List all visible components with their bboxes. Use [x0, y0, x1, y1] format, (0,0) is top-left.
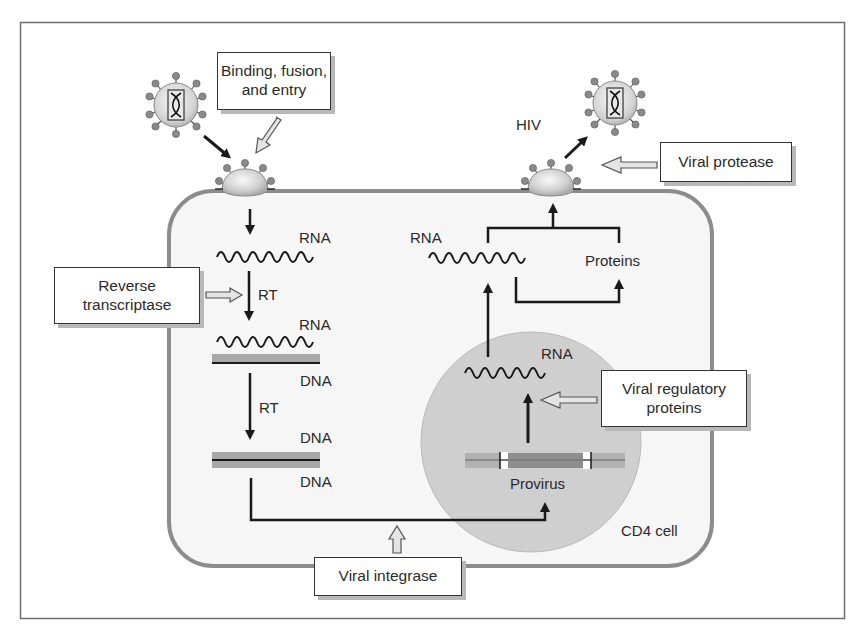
- callout-viral-protease: Viral protease: [660, 142, 792, 182]
- virus-label: HIV: [516, 117, 541, 132]
- label-dna-1: DNA: [300, 373, 332, 388]
- label-rt-1: RT: [258, 287, 278, 302]
- label-rt-2: RT: [259, 400, 279, 415]
- callout-protease-line1: Viral protease: [678, 153, 773, 172]
- callout-reverse-transcriptase: Reverse transcriptase: [54, 267, 200, 324]
- hollow-arrow-protease: [602, 157, 657, 173]
- dna-band-1: [212, 354, 320, 363]
- callout-binding-fusion-entry: Binding, fusion, and entry: [217, 52, 331, 110]
- callout-binding-line1: Binding, fusion,: [221, 62, 327, 81]
- label-cd4-cell: CD4 cell: [621, 523, 678, 538]
- callout-regulatory-line2: proteins: [646, 399, 701, 418]
- callout-regulatory-line1: Viral regulatory: [622, 380, 726, 399]
- provirus-dna: [465, 452, 625, 469]
- label-rna-cytoplasm: RNA: [410, 230, 442, 245]
- callout-rt-line1: Reverse: [98, 277, 156, 296]
- callout-binding-line2: and entry: [242, 81, 307, 100]
- hiv-virion-icon-right: [585, 70, 645, 135]
- hiv-virion-icon-left: [146, 72, 206, 137]
- hiv-lifecycle-diagram: HIV RNA RT RNA DNA RT DNA DNA RNA Protei…: [0, 0, 861, 638]
- callout-viral-regulatory-proteins: Viral regulatory proteins: [601, 370, 747, 427]
- callout-rt-line2: transcriptase: [83, 296, 172, 315]
- label-rna-2: RNA: [299, 317, 331, 332]
- hollow-arrow-binding: [256, 117, 281, 153]
- label-rna-nucleus: RNA: [541, 346, 573, 361]
- entry-site-icon: [215, 159, 275, 196]
- label-dna-2-top: DNA: [300, 430, 332, 445]
- arrow-virion-to-entry: [204, 136, 228, 156]
- budding-site-icon: [521, 159, 581, 196]
- callout-viral-integrase: Viral integrase: [314, 557, 462, 596]
- label-provirus: Provirus: [510, 476, 565, 491]
- callout-integrase-line1: Viral integrase: [339, 567, 438, 586]
- label-proteins: Proteins: [585, 253, 640, 268]
- arrow-bud-to-virion: [565, 139, 585, 158]
- label-dna-2-bottom: DNA: [300, 474, 332, 489]
- label-rna-1: RNA: [299, 230, 331, 245]
